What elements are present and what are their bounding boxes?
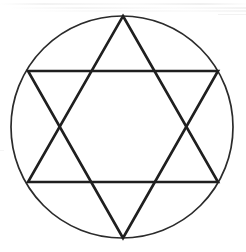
- circumscribed-circle: [11, 16, 233, 238]
- downward-triangle: [28, 71, 218, 238]
- upward-triangle: [28, 16, 218, 182]
- hexagram-figure: [0, 0, 246, 252]
- figure-canvas: [0, 0, 246, 252]
